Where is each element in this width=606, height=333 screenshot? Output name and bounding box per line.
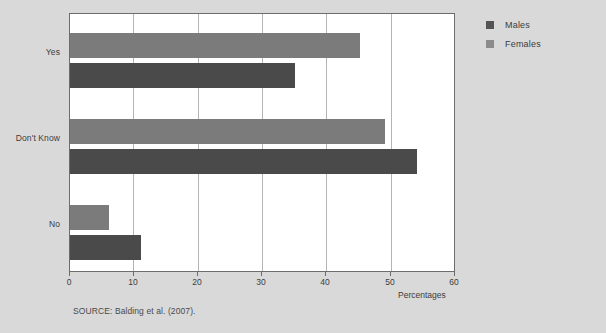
x-tick-label-40: 40 xyxy=(320,277,329,287)
x-tick-50 xyxy=(390,272,391,276)
y-axis-label-yes: Yes xyxy=(46,47,60,57)
legend-label-males: Males xyxy=(505,20,530,30)
legend-swatch-females-icon xyxy=(486,40,494,48)
bar-females-dont-know xyxy=(70,119,385,144)
x-tick-label-30: 30 xyxy=(256,277,265,287)
y-axis-label-no: No xyxy=(49,219,60,229)
x-tick-0 xyxy=(69,272,70,276)
gridline-50 xyxy=(391,14,392,271)
x-tick-label-10: 10 xyxy=(128,277,137,287)
x-tick-20 xyxy=(197,272,198,276)
source-note: SOURCE: Balding et al. (2007). xyxy=(73,306,196,316)
plot-area xyxy=(69,13,455,272)
bar-females-no xyxy=(70,205,109,230)
x-axis-title: Percentages xyxy=(398,290,446,300)
legend: Males Females xyxy=(486,15,541,53)
x-tick-label-50: 50 xyxy=(385,277,394,287)
x-tick-40 xyxy=(325,272,326,276)
legend-item-males: Males xyxy=(486,15,541,34)
x-tick-60 xyxy=(454,272,455,276)
x-tick-label-60: 60 xyxy=(449,277,458,287)
legend-item-females: Females xyxy=(486,34,541,53)
chart-figure: Yes Don't Know No 0 10 20 30 40 50 60 Pe… xyxy=(0,0,606,333)
legend-label-females: Females xyxy=(505,39,541,49)
bar-males-dont-know xyxy=(70,149,417,174)
x-tick-10 xyxy=(133,272,134,276)
x-tick-label-0: 0 xyxy=(67,277,72,287)
legend-swatch-males-icon xyxy=(486,21,494,29)
x-tick-30 xyxy=(261,272,262,276)
x-tick-label-20: 20 xyxy=(192,277,201,287)
bar-males-yes xyxy=(70,63,295,88)
y-axis-label-dont-know: Don't Know xyxy=(16,133,60,143)
bar-females-yes xyxy=(70,33,360,58)
bar-males-no xyxy=(70,235,141,260)
